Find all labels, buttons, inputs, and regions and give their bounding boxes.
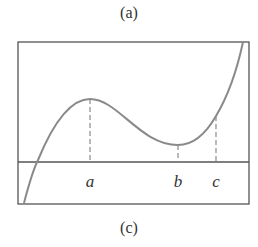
function-curve [24,42,243,203]
tick-label-a: a [86,172,95,191]
tick-label-b: b [174,172,183,191]
function-graph: a b c [0,0,258,247]
tick-label-c: c [212,172,220,191]
figure-caption-bottom: (c) [0,219,258,237]
